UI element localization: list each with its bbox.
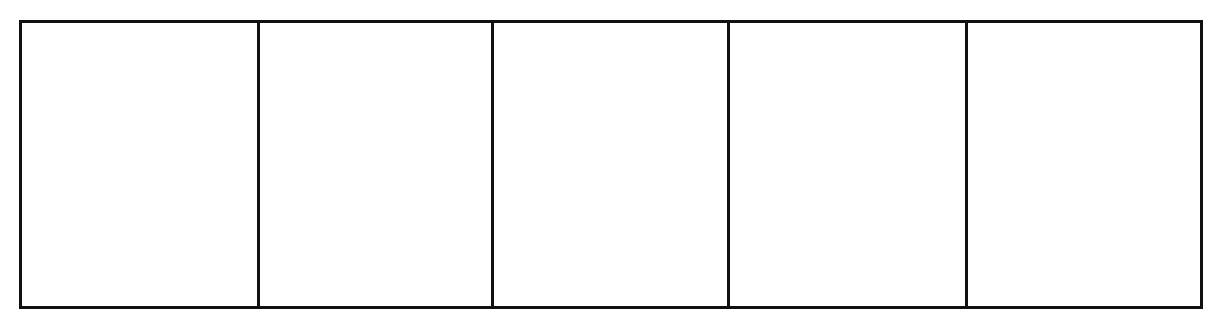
cell-4 <box>730 23 968 306</box>
five-cell-strip <box>19 20 1203 309</box>
cell-1 <box>22 23 260 306</box>
cell-2 <box>260 23 494 306</box>
cell-3 <box>494 23 730 306</box>
cell-5 <box>968 23 1200 306</box>
